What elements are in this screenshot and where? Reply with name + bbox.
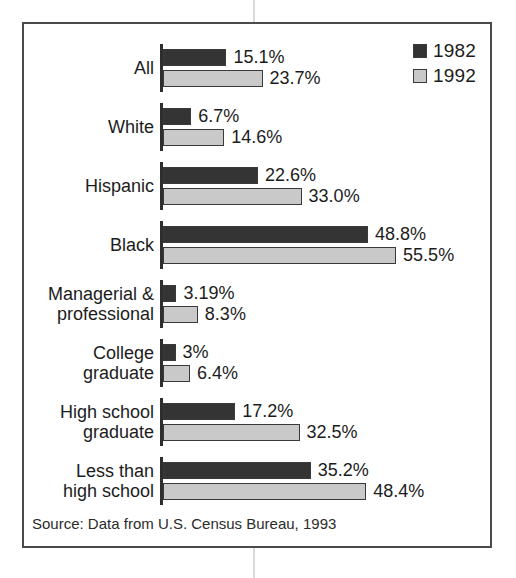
bar-value-1992: 23.7% [270,68,321,89]
category-label: Black [24,235,160,255]
bar-row-1982: 35.2% [163,462,490,479]
bar-1982 [163,403,235,420]
bar-value-1992: 6.4% [197,363,238,384]
bar-value-1992: 14.6% [231,127,282,148]
bar-value-1982: 6.7% [198,106,239,127]
bar-group: Black 48.8% 55.5% [24,215,490,274]
bar-1992 [163,247,396,264]
bar-1982 [163,226,368,243]
bar-1992 [163,306,198,323]
bar-1992 [163,483,366,500]
bar-1992 [163,70,263,87]
bar-value-1992: 8.3% [205,304,246,325]
bar-row-1992: 32.5% [163,424,490,441]
bar-row-1982: 3.19% [163,285,490,302]
category-label: College graduate [24,343,160,383]
bar-group: All 15.1% 23.7% [24,38,490,97]
bars-area: 3.19% 8.3% [160,280,490,328]
category-label: Managerial & professional [24,284,160,324]
bar-value-1982: 3% [183,342,209,363]
bar-group: White 6.7% 14.6% [24,97,490,156]
bar-row-1992: 23.7% [163,70,490,87]
bar-row-1992: 33.0% [163,188,490,205]
bar-row-1992: 6.4% [163,365,490,382]
bar-1992 [163,365,190,382]
bar-row-1982: 22.6% [163,167,490,184]
bar-value-1982: 3.19% [183,283,234,304]
bar-value-1992: 32.5% [307,422,358,443]
bar-group: High school graduate 17.2% 32.5% [24,392,490,451]
bar-row-1992: 48.4% [163,483,490,500]
category-label: Less than high school [24,461,160,501]
bar-1982 [163,462,311,479]
bar-1992 [163,129,224,146]
bars-area: 15.1% 23.7% [160,44,490,92]
bars-area: 35.2% 48.4% [160,457,490,505]
bars-area: 3% 6.4% [160,339,490,387]
bar-value-1982: 17.2% [242,401,293,422]
bar-row-1982: 17.2% [163,403,490,420]
plot-area: 1982 1992 All 15.1% 23.7% [24,24,490,546]
bar-row-1992: 14.6% [163,129,490,146]
bar-group: College graduate 3% 6.4% [24,333,490,392]
bar-value-1982: 22.6% [265,165,316,186]
bar-row-1982: 15.1% [163,49,490,66]
bar-1982 [163,108,191,125]
bar-1982 [163,167,258,184]
bar-value-1982: 35.2% [318,460,369,481]
bar-1982 [163,344,176,361]
bar-row-1982: 3% [163,344,490,361]
bar-value-1992: 48.4% [373,481,424,502]
bar-group: Managerial & professional 3.19% 8.3% [24,274,490,333]
category-label: All [24,58,160,78]
bar-value-1982: 48.8% [375,224,426,245]
bars-area: 17.2% 32.5% [160,398,490,446]
bar-value-1992: 33.0% [309,186,360,207]
category-label: Hispanic [24,176,160,196]
bars-area: 22.6% 33.0% [160,162,490,210]
bar-value-1992: 55.5% [403,245,454,266]
chart-frame: 1982 1992 All 15.1% 23.7% [22,22,492,548]
bar-group: Less than high school 35.2% 48.4% [24,451,490,510]
bar-group: Hispanic 22.6% 33.0% [24,156,490,215]
bar-value-1982: 15.1% [233,47,284,68]
bar-1992 [163,188,302,205]
bar-row-1982: 6.7% [163,108,490,125]
bars-area: 6.7% 14.6% [160,103,490,151]
bar-1982 [163,49,226,66]
bars-area: 48.8% 55.5% [160,221,490,269]
bar-row-1992: 8.3% [163,306,490,323]
bar-1982 [163,285,176,302]
category-label: White [24,117,160,137]
category-label: High school graduate [24,402,160,442]
source-note: Source: Data from U.S. Census Bureau, 19… [32,515,336,532]
bar-row-1992: 55.5% [163,247,490,264]
bar-row-1982: 48.8% [163,226,490,243]
bar-groups: All 15.1% 23.7% White [24,38,490,510]
bar-1992 [163,424,300,441]
